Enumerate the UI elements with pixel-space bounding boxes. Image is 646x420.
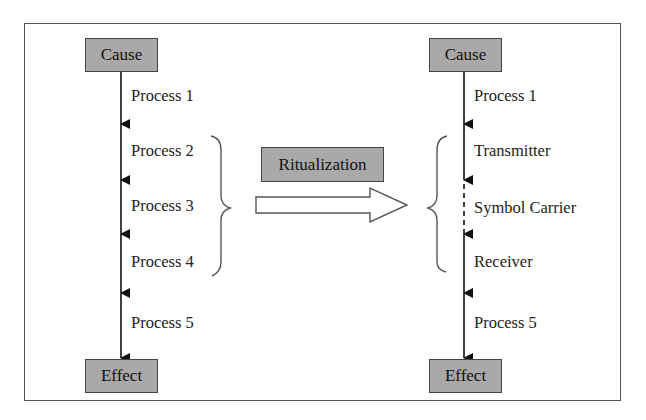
right-step-3: Symbol Carrier: [474, 198, 576, 218]
left-cause-label: Cause: [101, 45, 143, 65]
right-step-2: Transmitter: [474, 141, 550, 161]
left-step-4: Process 4: [131, 252, 194, 272]
right-effect-box: Effect: [429, 359, 502, 393]
ritualization-box: Ritualization: [261, 147, 384, 182]
left-effect-box: Effect: [85, 359, 158, 393]
right-effect-label: Effect: [445, 366, 486, 386]
ritualization-label: Ritualization: [279, 155, 367, 175]
left-brace: [211, 136, 230, 276]
right-step-4: Receiver: [474, 252, 533, 272]
left-step-1: Process 1: [131, 86, 194, 106]
right-step-1: Process 1: [474, 86, 537, 106]
right-cause-label: Cause: [445, 45, 487, 65]
left-effect-label: Effect: [101, 366, 142, 386]
right-brace: [428, 136, 447, 272]
left-step-3: Process 3: [131, 196, 194, 216]
left-step-2: Process 2: [131, 141, 194, 161]
ritualization-arrow: [256, 188, 407, 222]
right-cause-box: Cause: [429, 38, 502, 72]
left-cause-box: Cause: [85, 38, 158, 72]
right-step-5: Process 5: [474, 313, 537, 333]
left-step-5: Process 5: [131, 313, 194, 333]
